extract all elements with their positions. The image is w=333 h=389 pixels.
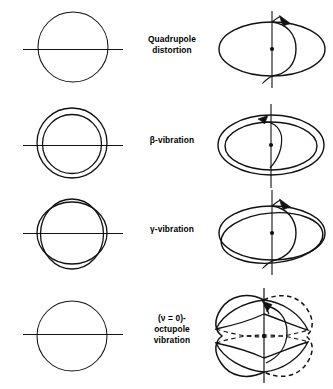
center-dot: [269, 143, 273, 147]
center-dot: [270, 47, 274, 51]
row-label-quadrupole-distortion: Quadrupole distortion: [124, 34, 220, 56]
row-label-line: octupole: [124, 324, 220, 335]
row-label-line: vibration: [124, 335, 220, 346]
row-label-beta-vibration: β-vibration: [124, 135, 220, 146]
center-dot: [262, 334, 266, 338]
row-label-line: distortion: [124, 45, 220, 56]
center-dot: [270, 231, 274, 235]
row-label-octupole-vibration: (ν = 0)- octupole vibration: [124, 313, 220, 345]
row-label-line: γ-vibration: [124, 224, 220, 235]
row-label-line: (ν = 0)-: [124, 313, 220, 324]
row-label-line: β-vibration: [124, 135, 220, 146]
row-label-gamma-vibration: γ-vibration: [124, 224, 220, 235]
row-label-line: Quadrupole: [124, 34, 220, 45]
